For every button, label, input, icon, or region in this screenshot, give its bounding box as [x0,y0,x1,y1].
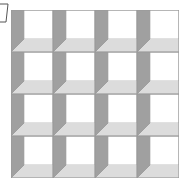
box-cell [53,94,95,136]
box-shape [11,94,53,136]
box-shape [95,52,137,94]
box-cell [137,94,179,136]
box-shape [137,10,179,52]
box-cell [11,10,53,52]
box-cell [95,94,137,136]
box-shape [53,10,95,52]
box-cell [11,94,53,136]
box-shape [137,136,179,178]
box-cell [53,136,95,178]
box-shape [137,52,179,94]
box-cell [137,136,179,178]
box-shape [95,94,137,136]
box-shape [53,94,95,136]
box-shape [95,10,137,52]
box-shape [95,136,137,178]
box-grid [11,10,181,180]
box-cell [95,10,137,52]
box-cell [95,136,137,178]
box-shape [11,10,53,52]
box-cell [11,52,53,94]
box-shape [53,52,95,94]
box-shape [11,136,53,178]
corner-bracket-mark [0,3,9,23]
box-cell [137,10,179,52]
box-cell [137,52,179,94]
box-shape [53,136,95,178]
box-cell [11,136,53,178]
box-cell [53,10,95,52]
box-shape [137,94,179,136]
box-cell [53,52,95,94]
box-shape [11,52,53,94]
box-cell [95,52,137,94]
